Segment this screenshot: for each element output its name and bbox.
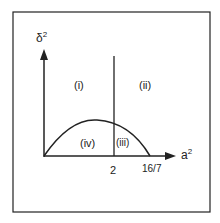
boundary-curve <box>44 120 150 156</box>
region-ii: (ii) <box>139 79 151 91</box>
x-tick-2: 2 <box>110 164 116 176</box>
y-axis-arrow-icon <box>40 49 48 60</box>
x-tick-16-7: 16/7 <box>142 163 161 174</box>
x-axis-arrow-icon <box>165 152 176 160</box>
phase-diagram <box>0 0 220 223</box>
x-axis-label: a2 <box>181 147 192 162</box>
region-i: (i) <box>74 79 84 91</box>
region-iv: (iv) <box>80 137 95 149</box>
region-iii: (iii) <box>116 137 129 148</box>
y-axis-label: δ2 <box>36 30 47 45</box>
